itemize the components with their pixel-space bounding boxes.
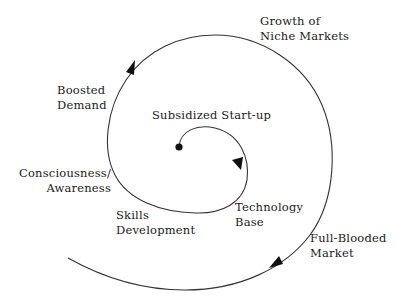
label-boosted-demand: Boosted Demand [57,83,107,113]
label-line: Awareness [19,181,111,196]
label-skills-development: Skills Development [116,208,195,238]
label-technology-base: Technology Base [235,200,303,230]
label-line: Market [310,246,387,261]
label-line: Boosted [57,83,107,98]
label-line: Growth of [260,14,349,29]
label-line: Development [116,223,195,238]
center-dot [175,143,182,150]
spiral-path [68,35,332,290]
label-line: Base [235,215,303,230]
arrow-head-left-icon [126,60,135,75]
label-line: Technology [235,200,303,215]
label-line: Niche Markets [260,29,349,44]
label-subsidized-startup: Subsidized Start-up [152,108,271,123]
arrow-head-inner-icon [232,157,243,170]
label-line: Consciousness/ [19,166,111,181]
label-growth-niche-markets: Growth of Niche Markets [260,14,349,44]
label-line: Skills [116,208,195,223]
label-consciousness-awareness: Consciousness/ Awareness [19,166,111,196]
label-line: Subsidized Start-up [152,108,271,123]
label-full-blooded-market: Full-Blooded Market [310,231,387,261]
label-line: Demand [57,98,107,113]
label-line: Full-Blooded [310,231,387,246]
